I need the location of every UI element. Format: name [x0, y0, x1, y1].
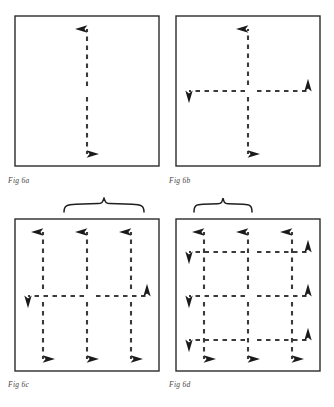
- figure-panel-6b: Fig 6b: [175, 15, 321, 167]
- panel-6d-diagram: [175, 218, 321, 372]
- brace-icon: [192, 197, 254, 213]
- panel-6d-brace: [192, 197, 254, 217]
- panel-6b-diagram: [175, 15, 321, 167]
- figure-plate: Fig 6a Fig 6b: [0, 0, 334, 407]
- figure-panel-6d: Fig 6d: [175, 218, 321, 372]
- panel-6a-diagram: [14, 15, 160, 167]
- panel-6d-caption: Fig 6d: [169, 381, 191, 389]
- panel-6c-diagram: [14, 218, 160, 372]
- brace-icon: [62, 197, 146, 213]
- figure-panel-6c: Fig 6c: [14, 218, 160, 372]
- panel-6b-caption: Fig 6b: [169, 177, 191, 185]
- figure-panel-6a: Fig 6a: [14, 15, 160, 167]
- panel-6c-caption: Fig 6c: [8, 381, 29, 389]
- panel-6a-caption: Fig 6a: [8, 177, 30, 185]
- panel-6c-brace: [62, 197, 146, 217]
